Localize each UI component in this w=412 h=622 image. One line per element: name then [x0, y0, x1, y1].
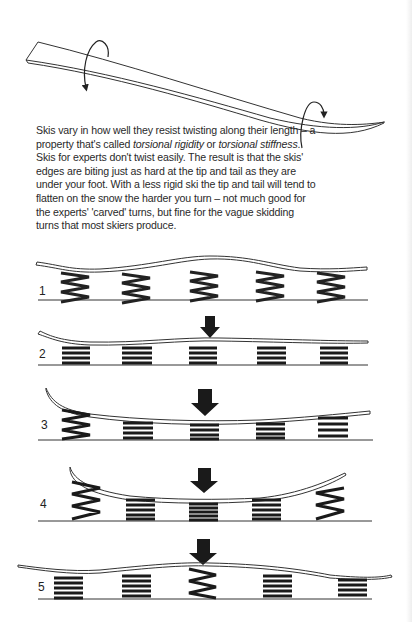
pressure-arrow-icon [200, 316, 220, 338]
term-torsional-stiffness: torsional stiffness [219, 138, 298, 150]
panel-number-3: 3 [41, 418, 48, 432]
diagram-canvas [0, 0, 412, 622]
pressure-arrow-icon [189, 539, 217, 565]
caption-text: or [204, 138, 219, 150]
panel-1 [36, 256, 368, 303]
term-torsional-rigidity: torsional rigidity [133, 138, 204, 150]
panel-number-4: 4 [40, 497, 47, 511]
panel-2 [38, 316, 368, 365]
panel-number-5: 5 [38, 580, 45, 594]
panel-number-2: 2 [39, 347, 46, 361]
pressure-arrow-icon [191, 389, 219, 416]
panel-number-1: 1 [39, 284, 46, 298]
panel-4 [38, 467, 372, 521]
caption-text: . Skis for experts don't twist easily. T… [36, 138, 316, 232]
torsional-rigidity-caption: Skis vary in how well they resist twisti… [36, 124, 316, 233]
panel-5 [18, 539, 392, 599]
panel-3 [38, 388, 373, 440]
rotation-arrow-icon [84, 41, 108, 88]
pressure-arrow-icon [190, 468, 218, 493]
